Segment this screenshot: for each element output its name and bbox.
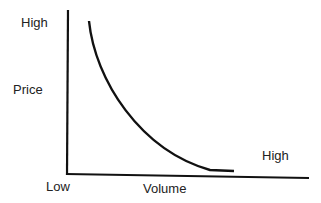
x-axis-label: Volume — [143, 182, 186, 195]
y-axis-label: Price — [13, 83, 43, 96]
x-high-label: High — [262, 149, 289, 162]
y-high-label: High — [21, 16, 48, 29]
demand-curve — [89, 21, 234, 171]
x-low-label: Low — [46, 180, 70, 193]
diagram-canvas — [0, 0, 321, 203]
x-axis — [66, 174, 309, 178]
y-axis — [67, 10, 68, 175]
